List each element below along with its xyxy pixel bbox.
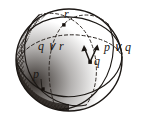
sphere-diagram-figure: r q ∨ r p ∨ q q p bbox=[0, 0, 141, 122]
point-dot-p bbox=[41, 87, 44, 90]
sphere-diagram-canvas bbox=[0, 0, 141, 122]
label-point-q: q bbox=[94, 55, 100, 67]
label-point-p: p bbox=[33, 68, 39, 80]
point-dot-q bbox=[88, 60, 92, 64]
label-point-r: r bbox=[64, 8, 69, 20]
label-join-p-q: p ∨ q bbox=[104, 41, 131, 53]
point-dot-r bbox=[62, 23, 65, 26]
label-join-q-r: q ∨ r bbox=[38, 40, 64, 52]
